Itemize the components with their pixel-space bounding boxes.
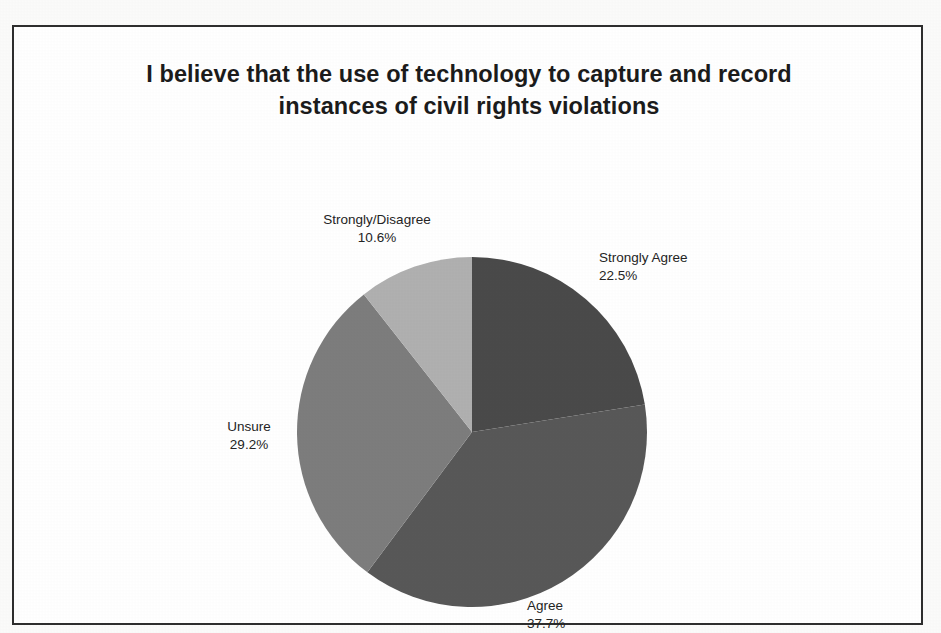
pie-label-strongly-agree-percent: 22.5% bbox=[599, 267, 759, 285]
pie-chart-svg bbox=[14, 27, 925, 623]
pie-label-strongly-disagree: Strongly/Disagree 10.6% bbox=[297, 211, 457, 247]
pie-label-unsure-name: Unsure bbox=[184, 418, 314, 436]
slide-frame: I believe that the use of technology to … bbox=[12, 25, 923, 625]
pie-label-agree: Agree 37.7% bbox=[527, 597, 657, 633]
pie-label-unsure: Unsure 29.2% bbox=[184, 418, 314, 454]
scanned-page: I believe that the use of technology to … bbox=[0, 0, 941, 633]
pie-label-agree-percent: 37.7% bbox=[527, 615, 657, 633]
pie-label-strongly-agree: Strongly Agree 22.5% bbox=[599, 249, 759, 285]
pie-label-strongly-disagree-percent: 10.6% bbox=[297, 229, 457, 247]
pie-label-strongly-agree-name: Strongly Agree bbox=[599, 249, 759, 267]
pie-label-unsure-percent: 29.2% bbox=[184, 436, 314, 454]
pie-chart: Strongly/Disagree 10.6% Strongly Agree 2… bbox=[14, 27, 925, 623]
pie-label-agree-name: Agree bbox=[527, 597, 657, 615]
pie-label-strongly-disagree-name: Strongly/Disagree bbox=[297, 211, 457, 229]
